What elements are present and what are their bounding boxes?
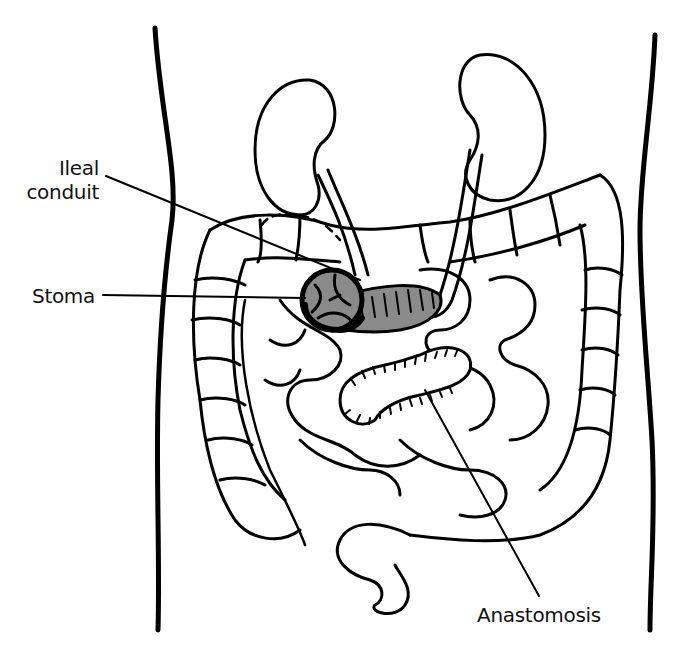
label-stoma: Stoma bbox=[32, 284, 95, 308]
label-ileal-line1: Ileal bbox=[57, 156, 99, 180]
kidney-left bbox=[255, 80, 335, 215]
anatomy-illustration bbox=[0, 0, 682, 646]
stoma-leader-line bbox=[103, 295, 305, 298]
anastomosis-leader-line bbox=[425, 390, 539, 596]
label-anastomosis: Anastomosis bbox=[477, 603, 601, 627]
kidney-right bbox=[460, 55, 545, 201]
body-outline-right bbox=[640, 35, 655, 630]
ileal-conduit-leader-line bbox=[106, 176, 360, 280]
body-outline-left bbox=[155, 28, 173, 630]
ileal-conduit-diagram: Ileal conduit Stoma Anastomosis bbox=[0, 0, 682, 646]
label-ileal-line2: conduit bbox=[25, 180, 99, 204]
